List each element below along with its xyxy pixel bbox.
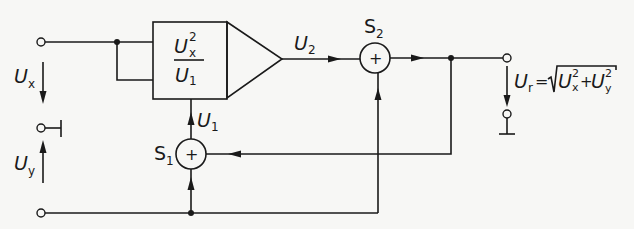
label-ux: Ux — [14, 65, 35, 91]
output-terminal-top — [503, 54, 511, 62]
svg-text:2: 2 — [605, 67, 612, 80]
circuit-diagram: Ux Uy U 2 x U1 — [0, 0, 634, 229]
svg-text:U: U — [558, 70, 572, 92]
label-uy: Uy — [14, 152, 35, 178]
svg-text:y: y — [605, 82, 612, 95]
divider-numerator-sup: 2 — [189, 30, 197, 44]
svg-text:r: r — [528, 81, 533, 95]
s2-output-wire — [390, 55, 503, 62]
divider-numerator-sub: x — [189, 46, 196, 60]
output-formula: U r = U 2 x + U 2 y — [514, 66, 616, 95]
uy-voltage-arrow — [40, 140, 47, 183]
feedback-wire — [206, 58, 451, 158]
input-terminal-ux — [37, 38, 45, 46]
summer-s2: + — [360, 43, 390, 73]
svg-text:+: + — [185, 145, 198, 164]
label-u1: U1 — [197, 109, 219, 134]
divider-denominator: U1 — [175, 64, 197, 88]
svg-text:x: x — [572, 81, 579, 94]
ux-voltage-arrow — [40, 62, 47, 104]
svg-text:=: = — [535, 72, 548, 91]
output-terminal-ground — [499, 110, 515, 134]
svg-text:U: U — [514, 70, 528, 92]
u2-wire — [282, 56, 360, 63]
svg-text:U: U — [591, 70, 605, 92]
output-voltage-arrow — [504, 66, 511, 107]
label-s1: S1 — [154, 142, 174, 168]
label-s2: S2 — [364, 15, 384, 41]
label-u2: U2 — [294, 32, 316, 57]
bottom-rail-uy — [45, 73, 382, 213]
divider-numerator: U — [174, 35, 188, 57]
common-terminal — [37, 120, 61, 137]
amplifier-triangle — [227, 22, 282, 98]
junction-dot-input — [114, 39, 120, 45]
s1-bottom-input — [188, 169, 195, 213]
summer-s1: + — [176, 139, 206, 169]
svg-text:2: 2 — [572, 67, 579, 80]
input-terminal-uy — [37, 209, 45, 217]
input-ux-wire — [45, 42, 153, 80]
svg-text:+: + — [369, 49, 382, 68]
u1-wire — [188, 99, 195, 139]
